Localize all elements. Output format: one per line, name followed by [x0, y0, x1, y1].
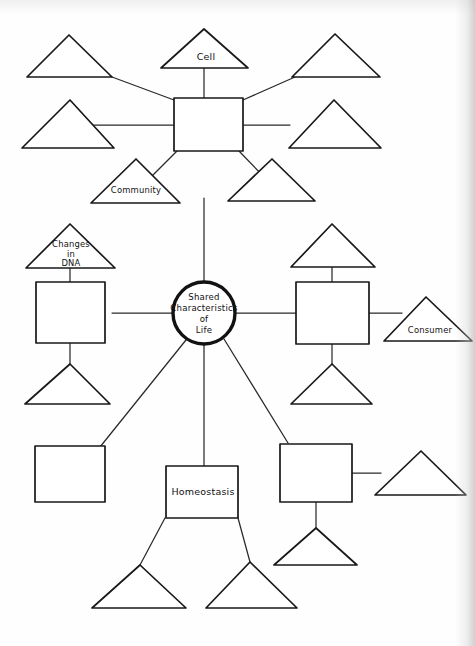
- consumer-triangle-label: Consumer: [408, 325, 453, 335]
- left-branch-group: Changes in DNA: [25, 224, 115, 404]
- concept-map-canvas: Cell Community Changes in DNA: [0, 0, 475, 646]
- link-top-box-to-upper-right-triangle: [243, 77, 295, 100]
- link-homeostasis-to-right-triangle: [238, 518, 250, 562]
- hub-label-line3: of: [200, 314, 209, 324]
- link-top-box-to-upper-left-triangle: [112, 77, 174, 100]
- homeostasis-left-triangle[interactable]: [92, 565, 186, 608]
- cell-triangle[interactable]: [161, 29, 248, 68]
- community-triangle[interactable]: [91, 159, 180, 203]
- hub-label-line2: Characteristics: [170, 303, 238, 313]
- concept-map-page: Cell Community Changes in DNA: [0, 0, 475, 646]
- hub-group: Shared Characteristics of Life: [170, 282, 238, 344]
- bottom-right-lower-triangle[interactable]: [274, 528, 357, 565]
- bottom-right-box[interactable]: [280, 444, 352, 502]
- homeostasis-box-label: Homeostasis: [171, 486, 234, 497]
- link-hub-to-bottom-left-box: [100, 340, 186, 447]
- top-mid-left-triangle[interactable]: [22, 100, 114, 148]
- link-hub-to-bottom-right-box: [224, 339, 288, 443]
- link-homeostasis-to-left-triangle: [140, 518, 165, 565]
- community-triangle-label: Community: [111, 185, 161, 195]
- top-lower-right-triangle[interactable]: [228, 159, 315, 201]
- top-branch-group: Cell Community: [22, 29, 381, 203]
- cell-triangle-label: Cell: [197, 51, 216, 62]
- hub-label-line1: Shared: [188, 292, 219, 302]
- top-upper-right-triangle[interactable]: [292, 34, 380, 77]
- changes-in-dna-line1: Changes: [52, 239, 90, 249]
- right-branch-group: Consumer: [291, 224, 472, 404]
- homeostasis-right-triangle[interactable]: [206, 562, 297, 608]
- bottom-left-branch-group: [35, 446, 105, 502]
- left-box[interactable]: [36, 282, 105, 343]
- top-mid-right-triangle[interactable]: [289, 100, 381, 148]
- right-box[interactable]: [296, 282, 369, 344]
- bottom-center-branch-group: Homeostasis: [92, 466, 297, 608]
- top-box[interactable]: [174, 98, 243, 151]
- bottom-right-branch-group: [274, 444, 466, 565]
- right-upper-triangle[interactable]: [291, 224, 375, 267]
- hub-label-line4: Life: [196, 325, 212, 335]
- right-lower-triangle[interactable]: [291, 364, 372, 404]
- left-lower-triangle[interactable]: [25, 364, 110, 404]
- top-upper-left-triangle[interactable]: [27, 35, 112, 77]
- bottom-right-side-triangle[interactable]: [375, 451, 466, 495]
- bottom-left-box[interactable]: [35, 446, 105, 502]
- link-top-box-to-community: [151, 150, 178, 177]
- changes-in-dna-line3: DNA: [61, 258, 80, 268]
